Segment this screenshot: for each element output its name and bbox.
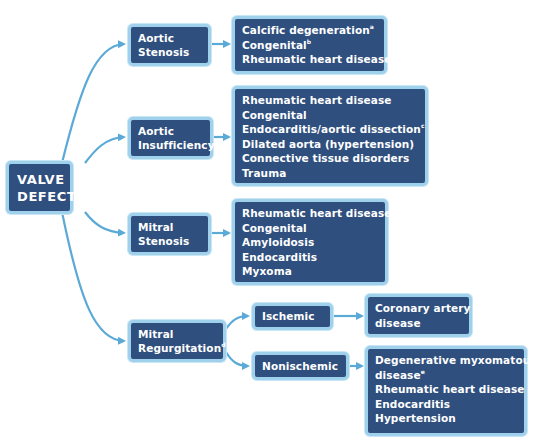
- node-aortic-stenosis: Aortic Stenosis: [128, 24, 211, 66]
- node-ischemic: Ischemic: [252, 303, 333, 330]
- root-line-1: VALVE: [17, 171, 62, 188]
- cause-item: Amyloidosis: [242, 235, 379, 250]
- cause-item: Trauma: [242, 166, 419, 181]
- cause-item: Rheumatic heart disease: [375, 382, 518, 397]
- node-label-line: Insufficiency: [138, 138, 204, 153]
- node-label-line: Regurgitationd: [138, 341, 217, 356]
- node-mitral-stenosis: Mitral Stenosis: [128, 213, 211, 255]
- cause-item: Congenital: [242, 221, 379, 236]
- cause-item: Hypertension: [375, 411, 518, 426]
- causes-mitral-stenosis: Rheumatic heart disease Congenital Amylo…: [232, 199, 388, 285]
- cause-item: Rheumatic heart disease: [242, 93, 419, 108]
- cause-item: Congenital: [242, 108, 419, 123]
- cause-item: Endocarditis: [375, 397, 518, 412]
- node-label-line: Aortic: [138, 31, 202, 46]
- node-aortic-insufficiency: Aortic Insufficiency: [128, 117, 213, 159]
- node-label-line: Aortic: [138, 124, 204, 139]
- causes-aortic-stenosis: Calcific degenerationa Congenitalb Rheum…: [232, 16, 387, 74]
- root-node-valve-defect: VALVE DEFECT: [6, 161, 73, 214]
- node-label-line: Stenosis: [138, 234, 202, 249]
- cause-item: Degenerative myxomatous: [375, 353, 518, 368]
- cause-item: Coronary artery: [375, 301, 463, 316]
- cause-item: Calcific degenerationa: [242, 23, 378, 38]
- root-line-2: DEFECT: [17, 188, 62, 205]
- cause-item: Rheumatic heart disease: [242, 52, 378, 67]
- node-label-line: Mitral: [138, 327, 217, 342]
- node-mitral-regurgitation: Mitral Regurgitationd: [128, 320, 226, 362]
- node-label-line: Mitral: [138, 220, 202, 235]
- cause-item: Dilated aorta (hypertension): [242, 137, 419, 152]
- cause-item: Endocarditis/aortic dissectionc: [242, 122, 419, 137]
- cause-item: Endocarditis: [242, 250, 379, 265]
- causes-ischemic: Coronary artery disease: [365, 294, 472, 337]
- causes-nonischemic: Degenerative myxomatous diseasee Rheumat…: [365, 346, 527, 436]
- cause-item: Rheumatic heart disease: [242, 206, 379, 221]
- cause-item: Myxoma: [242, 264, 379, 279]
- node-nonischemic: Nonischemic: [252, 352, 349, 380]
- cause-item: Connective tissue disorders: [242, 151, 419, 166]
- cause-item: disease: [375, 316, 463, 331]
- node-label-line: Stenosis: [138, 45, 202, 60]
- node-label-line: Nonischemic: [262, 359, 340, 374]
- cause-item: Congenitalb: [242, 38, 378, 53]
- node-label-line: Ischemic: [262, 309, 324, 324]
- causes-aortic-insufficiency: Rheumatic heart disease Congenital Endoc…: [232, 86, 428, 186]
- cause-item: diseasee: [375, 368, 518, 383]
